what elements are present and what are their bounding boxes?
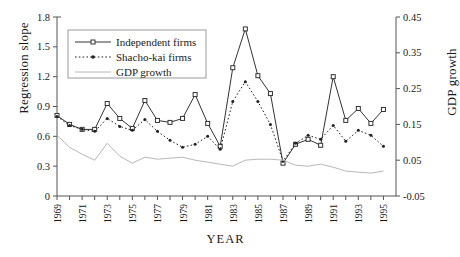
data-point-marker — [332, 124, 335, 127]
data-point-marker — [307, 134, 310, 137]
y-tick-label-right: 0.35 — [403, 47, 421, 58]
data-point-marker — [206, 135, 209, 138]
data-point-marker — [256, 74, 260, 78]
x-tick-label: 1989 — [304, 204, 314, 223]
data-point-marker — [105, 102, 109, 106]
data-point-marker — [344, 118, 348, 122]
data-point-marker — [155, 118, 159, 122]
data-point-marker — [193, 93, 197, 97]
data-point-marker — [369, 121, 373, 125]
x-tick-label: 1981 — [204, 204, 214, 223]
data-point-marker — [268, 92, 272, 96]
data-point-marker — [231, 100, 234, 103]
data-point-marker — [356, 106, 360, 110]
data-point-marker — [357, 129, 360, 132]
data-point-marker — [294, 142, 297, 145]
x-tick-label: 1973 — [103, 204, 113, 223]
y-tick-label-right: 0.15 — [403, 119, 421, 130]
data-point-marker — [319, 138, 322, 141]
data-point-marker — [382, 145, 385, 148]
x-tick-label: 1995 — [379, 204, 389, 223]
x-tick-label: 1983 — [229, 204, 239, 223]
x-tick-label: 1979 — [179, 204, 189, 223]
data-point-marker — [181, 146, 184, 149]
y-tick-label-right: 0.25 — [403, 83, 421, 94]
y-tick-label-left: 0.9 — [37, 101, 50, 112]
data-point-marker — [194, 143, 197, 146]
y-tick-label-left: 0.6 — [37, 131, 50, 142]
y-tick-label-right: 0.45 — [403, 12, 421, 23]
data-point-marker — [118, 116, 122, 120]
y-tick-label-right: 0.05 — [403, 155, 421, 166]
x-tick-label: 1975 — [128, 204, 138, 223]
data-point-marker — [206, 121, 210, 125]
legend-label[interactable]: Independent firms — [116, 36, 196, 48]
x-tick-label: 1985 — [254, 204, 264, 223]
data-point-marker — [156, 130, 159, 133]
x-tick-label: 1977 — [153, 204, 163, 223]
series-line-gdp-growth — [57, 135, 383, 173]
data-point-marker — [143, 118, 146, 121]
data-point-marker — [331, 75, 335, 79]
legend-marker — [91, 40, 95, 44]
x-tick-label: 1971 — [78, 204, 88, 223]
legend-label[interactable]: GDP growth — [116, 66, 172, 78]
data-point-marker — [93, 130, 96, 133]
data-point-marker — [118, 125, 121, 128]
data-point-marker — [256, 100, 259, 103]
y-tick-label-right: -0.05 — [403, 191, 425, 202]
x-tick-label: 1991 — [329, 204, 339, 223]
data-point-marker — [319, 143, 323, 147]
data-point-marker — [244, 80, 247, 83]
data-point-marker — [169, 139, 172, 142]
x-tick-label: 1993 — [354, 204, 364, 223]
data-point-marker — [344, 140, 347, 143]
data-point-marker — [143, 99, 147, 103]
data-point-marker — [56, 115, 59, 118]
data-point-marker — [231, 66, 235, 70]
data-point-marker — [68, 124, 71, 127]
y-tick-label-left: 1.5 — [37, 41, 50, 52]
data-point-marker — [168, 120, 172, 124]
data-point-marker — [81, 128, 84, 131]
legend-marker — [91, 55, 95, 59]
data-point-marker — [306, 137, 310, 141]
y-tick-label-left: 1.8 — [37, 12, 50, 23]
data-point-marker — [106, 117, 109, 120]
data-point-marker — [243, 27, 247, 31]
x-tick-label: 1987 — [279, 204, 289, 223]
y-tick-label-left: 1.2 — [37, 71, 50, 82]
data-point-marker — [131, 129, 134, 132]
y-tick-label-left: 0.3 — [37, 161, 50, 172]
data-point-marker — [369, 134, 372, 137]
x-tick-label: 1969 — [53, 204, 63, 223]
data-point-marker — [381, 107, 385, 111]
data-point-marker — [181, 116, 185, 120]
y-tick-label-left: 0 — [45, 191, 50, 202]
legend-label[interactable]: Shacho-kai firms — [116, 51, 191, 63]
data-point-marker — [219, 148, 222, 151]
data-point-marker — [269, 123, 272, 126]
